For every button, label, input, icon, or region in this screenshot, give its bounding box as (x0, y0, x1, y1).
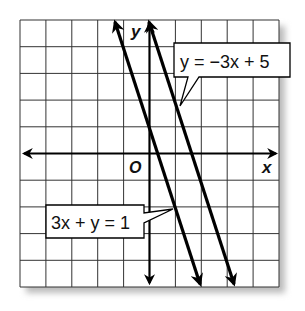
origin-label: O (129, 159, 142, 176)
coordinate-graph: y x O y = −3x + 5 3x + y = 1 (0, 0, 305, 311)
x-axis-label: x (261, 158, 273, 177)
label-y-equals-neg3x-plus-5: y = −3x + 5 (180, 52, 270, 72)
label-3x-plus-y-equals-1: 3x + y = 1 (51, 213, 130, 233)
y-axis-label: y (130, 22, 142, 41)
